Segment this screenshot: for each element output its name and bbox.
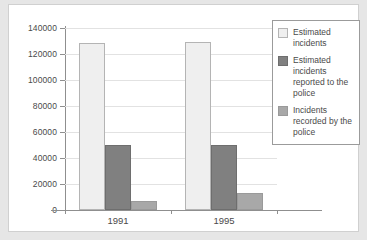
legend-swatch-icon <box>278 28 288 38</box>
y-axis-tick-mark <box>60 184 65 185</box>
y-axis-tick-mark <box>60 106 65 107</box>
bar <box>105 145 131 210</box>
y-axis-tick-label: 40000 <box>33 153 57 163</box>
legend-item[interactable]: Estimated incidents reported to the poli… <box>278 55 354 99</box>
y-axis-tick-label: 100000 <box>28 75 57 85</box>
bar <box>79 43 105 210</box>
bar <box>131 201 157 210</box>
figure: 020000400006000080000100000120000140000 … <box>0 0 367 240</box>
x-axis-tick-mark <box>277 210 278 214</box>
bar <box>237 193 263 210</box>
legend-swatch-icon <box>278 106 288 116</box>
y-axis-tick-label: 120000 <box>28 49 57 59</box>
x-axis-tick-mark <box>65 210 66 214</box>
y-axis-tick-labels: 020000400006000080000100000120000140000 <box>9 5 57 240</box>
y-axis-tick-mark <box>60 132 65 133</box>
y-axis-tick-label: 60000 <box>33 127 57 137</box>
y-axis-tick-mark <box>60 158 65 159</box>
chart-panel: 020000400006000080000100000120000140000 … <box>8 4 359 232</box>
bar <box>185 42 211 210</box>
x-axis-tick-mark <box>171 210 172 214</box>
legend-item[interactable]: Estimated incidents <box>278 27 354 49</box>
gridline <box>65 28 277 29</box>
legend-item[interactable]: Incidents recorded by the police <box>278 105 354 138</box>
bar <box>211 145 237 210</box>
legend-swatch-icon <box>278 56 288 66</box>
x-axis-tick-label: 1995 <box>213 215 234 226</box>
y-axis-tick-label: 140000 <box>28 23 57 33</box>
y-axis-tick-mark <box>60 28 65 29</box>
y-axis-tick-mark <box>60 54 65 55</box>
y-axis-tick-mark <box>60 80 65 81</box>
y-axis-tick-label: 20000 <box>33 179 57 189</box>
chart-legend: Estimated incidentsEstimated incidents r… <box>272 20 360 145</box>
legend-label: Incidents recorded by the police <box>293 105 354 138</box>
x-axis-tick-label: 1991 <box>107 215 128 226</box>
legend-label: Estimated incidents reported to the poli… <box>293 55 354 99</box>
legend-label: Estimated incidents <box>293 27 354 49</box>
plot-area <box>65 28 277 210</box>
y-axis-tick-label: 80000 <box>33 101 57 111</box>
